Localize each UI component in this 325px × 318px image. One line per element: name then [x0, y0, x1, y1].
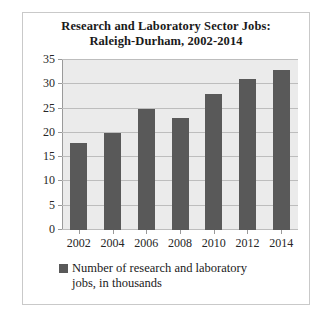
y-axis-label: 20 [43, 125, 55, 140]
bar-slot: 2012 [231, 59, 265, 230]
bar [138, 109, 155, 230]
bar-slot: 2014 [264, 59, 298, 230]
x-axis-tick [214, 230, 215, 234]
legend-label-line-1: Number of research and laboratory [72, 261, 247, 275]
y-axis-label: 25 [43, 101, 55, 116]
x-axis-tick [79, 230, 80, 234]
plot-wrap: 35302520151050 2002200420062008201020122… [62, 59, 298, 230]
bar [172, 118, 189, 230]
chart-legend: Number of research and laboratory jobs, … [59, 261, 277, 291]
bar [104, 133, 121, 230]
x-axis-label: 2004 [101, 236, 125, 251]
chart-title: Research and Laboratory Sector Jobs: Ral… [23, 19, 309, 49]
y-axis-label: 30 [43, 76, 55, 91]
bar-slot: 2002 [62, 59, 96, 230]
bar-slot: 2004 [96, 59, 130, 230]
y-axis-label: 35 [43, 52, 55, 67]
x-axis-label: 2002 [67, 236, 91, 251]
x-axis-tick [146, 230, 147, 234]
y-axis-label: 5 [49, 198, 55, 213]
x-axis-label: 2006 [134, 236, 158, 251]
x-axis-tick [180, 230, 181, 234]
x-axis-tick [113, 230, 114, 234]
legend-label: Number of research and laboratory jobs, … [72, 261, 247, 291]
bar-series: 2002200420062008201020122014 [62, 59, 298, 230]
x-axis-label: 2010 [202, 236, 226, 251]
legend-swatch-icon [59, 264, 68, 273]
bar-slot: 2006 [129, 59, 163, 230]
bar [239, 79, 256, 230]
x-axis-tick [281, 230, 282, 234]
y-axis-label: 0 [49, 222, 55, 237]
bar-slot: 2008 [163, 59, 197, 230]
x-axis-label: 2014 [269, 236, 293, 251]
y-axis-label: 10 [43, 173, 55, 188]
x-axis-tick [247, 230, 248, 234]
y-axis-label: 15 [43, 149, 55, 164]
bar [205, 94, 222, 230]
legend-label-line-2: jobs, in thousands [72, 276, 162, 290]
bar [70, 143, 87, 230]
x-axis-label: 2012 [235, 236, 259, 251]
chart-figure: Research and Laboratory Sector Jobs: Ral… [22, 12, 310, 305]
bar [273, 70, 290, 230]
x-axis-label: 2008 [168, 236, 192, 251]
chart-title-line-1: Research and Laboratory Sector Jobs: [23, 19, 309, 34]
bar-slot: 2010 [197, 59, 231, 230]
chart-title-line-2: Raleigh-Durham, 2002-2014 [23, 34, 309, 49]
